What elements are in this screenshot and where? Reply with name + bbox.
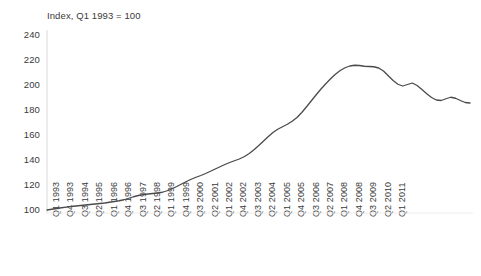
data-series-line: [47, 65, 470, 210]
index-line-chart: Index, Q1 1993 = 100 2402202001801601401…: [0, 0, 481, 276]
plot-area: [0, 0, 481, 276]
